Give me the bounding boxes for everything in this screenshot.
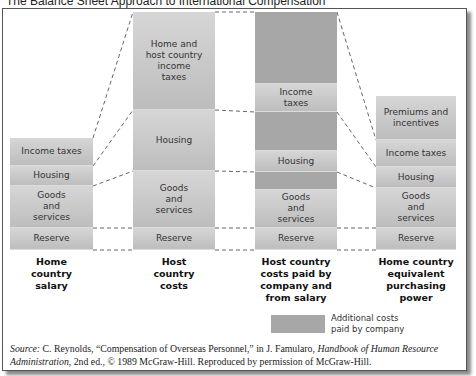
label-line: country: [133, 268, 215, 280]
block-reserve: Reserve: [133, 228, 215, 250]
block-goods-and-services: Goods and services: [133, 171, 215, 228]
column-label: Home country salary: [10, 256, 93, 292]
label-line: power: [371, 292, 461, 304]
source-prefix: Source:: [10, 343, 40, 354]
block-income-taxes: Income taxes: [255, 84, 337, 112]
block-reserve: Reserve: [376, 228, 456, 250]
label-line: salary: [10, 280, 93, 292]
legend-line: Additional costs: [331, 313, 404, 324]
block-housing: Housing: [10, 166, 93, 186]
legend-line: paid by company: [331, 324, 404, 335]
block-premiums-and-incentives: Premiums and incentives: [376, 96, 456, 140]
block-company-cost: [255, 12, 337, 84]
label-line: costs paid by: [250, 268, 342, 280]
block-housing: Housing: [255, 151, 337, 172]
block-goods-and-services: Goods and services: [376, 188, 456, 228]
label-line: costs: [133, 280, 215, 292]
legend-label: Additional costs paid by company: [331, 313, 404, 335]
block-home-and-host-income-taxes: Home and host country income taxes: [133, 12, 215, 110]
column-label: Host country costs paid by company and f…: [250, 256, 342, 304]
label-line: Home country: [371, 256, 461, 268]
column-label: Home country equivalent purchasing power: [371, 256, 461, 304]
block-goods-and-services: Goods and services: [10, 186, 93, 228]
source-citation: Source: C. Reynolds, “Compensation of Ov…: [10, 342, 465, 368]
block-income-taxes: Income taxes: [376, 140, 456, 167]
block-company-cost: [255, 172, 337, 190]
block-goods-and-services: Goods and services: [255, 190, 337, 228]
block-housing: Housing: [376, 167, 456, 188]
label-line: company and: [250, 280, 342, 292]
label-line: country: [10, 268, 93, 280]
column-label: Host country costs: [133, 256, 215, 292]
block-housing: Housing: [133, 110, 215, 171]
block-reserve: Reserve: [10, 228, 93, 250]
label-line: Home: [10, 256, 93, 268]
source-text: C. Reynolds, “Compensation of Overseas P…: [40, 343, 317, 354]
label-line: equivalent: [371, 268, 461, 280]
label-line: from salary: [250, 292, 342, 304]
label-line: Host country: [250, 256, 342, 268]
label-line: Host: [133, 256, 215, 268]
source-text: , 2nd ed., © 1989 McGraw-Hill. Reproduce…: [69, 356, 372, 367]
label-line: purchasing: [371, 280, 461, 292]
block-company-cost: [255, 112, 337, 151]
legend-swatch-company-costs: [271, 315, 325, 333]
block-income-taxes: Income taxes: [10, 138, 93, 166]
block-reserve: Reserve: [255, 228, 337, 250]
